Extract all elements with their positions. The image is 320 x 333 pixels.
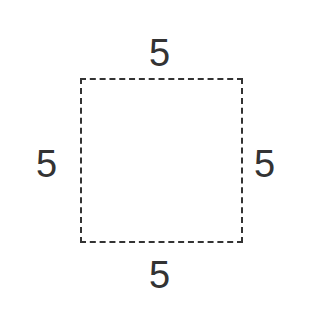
left-side-label: 5 [36,145,57,183]
top-side-label: 5 [149,34,170,72]
dashed-square [80,78,243,243]
bottom-side-label: 5 [149,256,170,294]
right-side-label: 5 [254,145,275,183]
